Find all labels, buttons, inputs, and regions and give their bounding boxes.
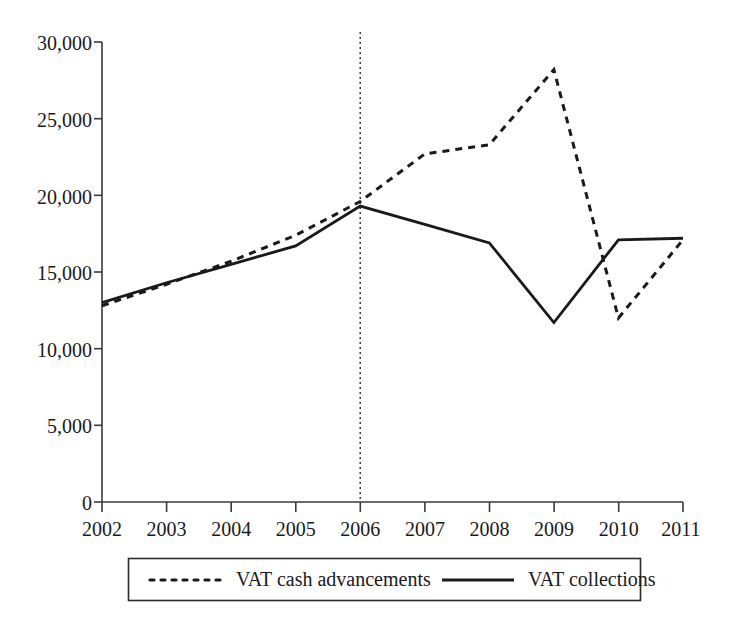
x-tick-label-2003: 2003 [147, 518, 187, 540]
x-tick-label-2009: 2009 [534, 518, 574, 540]
series-line-vat-cash-advancements [102, 70, 683, 318]
y-tick-label-25000: 25,000 [37, 109, 92, 131]
legend-label-vat-collections: VAT collections [528, 568, 656, 590]
y-tick-label-30000: 30,000 [37, 32, 92, 54]
y-tick-label-15000: 15,000 [37, 262, 92, 284]
y-tick-label-10000: 10,000 [37, 339, 92, 361]
y-tick-label-0: 0 [82, 492, 92, 514]
x-axis [102, 502, 683, 512]
x-tick-label-2004: 2004 [211, 518, 251, 540]
x-tick-label-2006: 2006 [340, 518, 380, 540]
line-chart-canvas: 30,000 25,000 20,000 15,000 10,000 5,000… [0, 0, 731, 626]
legend-label-vat-cash-advancements: VAT cash advancements [236, 568, 431, 590]
x-tick-label-2005: 2005 [276, 518, 316, 540]
x-tick-label-2008: 2008 [470, 518, 510, 540]
chart-figure: 30,000 25,000 20,000 15,000 10,000 5,000… [0, 0, 731, 626]
x-tick-label-2002: 2002 [82, 518, 122, 540]
chart-legend: VAT cash advancements VAT collections [129, 559, 656, 601]
x-tick-label-2011: 2011 [661, 518, 700, 540]
y-tick-label-20000: 20,000 [37, 186, 92, 208]
x-axis-tick-labels: 2002 2003 2004 2005 2006 2007 2008 2009 … [82, 518, 701, 540]
x-tick-label-2007: 2007 [405, 518, 445, 540]
y-axis-tick-labels: 30,000 25,000 20,000 15,000 10,000 5,000… [37, 32, 92, 514]
y-tick-label-5000: 5,000 [47, 415, 92, 437]
y-axis [94, 42, 102, 502]
series-line-vat-collections [102, 206, 683, 323]
x-tick-label-2010: 2010 [599, 518, 639, 540]
